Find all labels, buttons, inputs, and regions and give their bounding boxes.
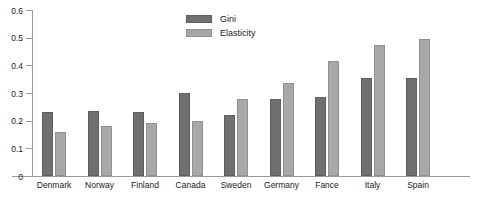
bar-gini: [361, 78, 372, 176]
bar-chart: 00.10.20.30.40.50.6 DenmarkNorwayFinland…: [0, 0, 480, 206]
chart-legend: Gini Elasticity: [186, 12, 256, 40]
x-axis-label: Fance: [315, 181, 339, 190]
bar-group: [270, 10, 294, 176]
bar-gini: [406, 78, 417, 176]
legend-label-gini: Gini: [220, 15, 236, 24]
y-axis-tick: 0: [26, 176, 32, 177]
legend-item-elasticity: Elasticity: [186, 26, 256, 40]
legend-swatch-gini-icon: [186, 15, 212, 23]
bar-group: [42, 10, 66, 176]
legend-swatch-elasticity-icon: [186, 29, 212, 37]
y-axis-tick-label: 0: [18, 172, 23, 181]
x-axis-label: Germany: [264, 181, 299, 190]
x-axis-label: Norway: [85, 181, 114, 190]
x-axis-label: Spain: [407, 181, 429, 190]
bar-elasticity: [55, 132, 66, 176]
bar-group: [315, 10, 339, 176]
x-axis-label: Canada: [176, 181, 206, 190]
y-axis-tick-label: 0.5: [11, 34, 23, 43]
bar-group: [361, 10, 385, 176]
y-axis-tick-label: 0.6: [11, 6, 23, 15]
bar-gini: [179, 93, 190, 176]
bar-gini: [42, 112, 53, 176]
x-axis-line: [12, 176, 470, 177]
y-axis-tick-label: 0.4: [11, 62, 23, 71]
bar-gini: [88, 111, 99, 176]
bar-elasticity: [328, 61, 339, 176]
legend-item-gini: Gini: [186, 12, 256, 26]
x-axis-label: Denmark: [37, 181, 71, 190]
bar-group: [406, 10, 430, 176]
bar-elasticity: [146, 123, 157, 176]
bar-group: [133, 10, 157, 176]
bar-elasticity: [101, 126, 112, 176]
bar-elasticity: [283, 83, 294, 176]
bar-elasticity: [192, 121, 203, 176]
y-axis-tick-label: 0.3: [11, 89, 23, 98]
bar-gini: [224, 115, 235, 176]
bar-gini: [133, 112, 144, 176]
legend-label-elasticity: Elasticity: [220, 29, 256, 38]
bar-group: [88, 10, 112, 176]
bar-gini: [270, 99, 281, 176]
bar-elasticity: [419, 39, 430, 176]
x-axis-label: Italy: [365, 181, 381, 190]
bar-gini: [315, 97, 326, 176]
bar-elasticity: [374, 45, 385, 176]
bar-elasticity: [237, 99, 248, 176]
x-axis-label: Finland: [131, 181, 159, 190]
x-axis-label: Sweden: [221, 181, 252, 190]
y-axis-tick-label: 0.1: [11, 145, 23, 154]
y-axis-tick-label: 0.2: [11, 117, 23, 126]
